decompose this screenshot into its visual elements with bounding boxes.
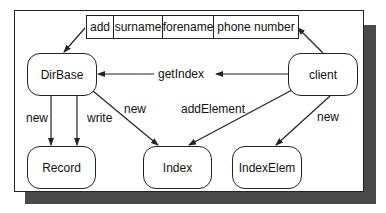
arrow-addelement (189, 90, 292, 145)
label-new-record: new (26, 111, 48, 125)
node-dirbase: DirBase (27, 53, 97, 96)
node-client: client (288, 53, 358, 96)
node-record: Record (27, 146, 96, 189)
label-getindex: getIndex (158, 67, 204, 81)
label-write-record: write (87, 111, 112, 125)
node-index: Index (143, 146, 212, 189)
arrow-table-to-dirbase (64, 28, 85, 52)
label-new-index: new (124, 102, 146, 116)
label-addelement: addElement (181, 102, 245, 116)
node-indexelem: IndexElem (232, 146, 302, 189)
arrow-client-to-table (298, 28, 323, 53)
label-new-indexelem: new (317, 110, 339, 124)
